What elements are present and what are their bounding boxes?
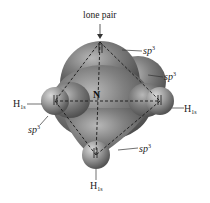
- lone-pair-label: lone pair: [83, 11, 117, 21]
- ammonia-sp3-diagram: lone pair N sp3 sp3 sp3 sp3 H1s H1s H1s: [0, 0, 210, 203]
- orbital-illustration: [0, 0, 210, 203]
- sp3-label-left: sp3: [28, 124, 40, 135]
- hydrogen-label-left: H1s: [13, 99, 26, 110]
- hydrogen-label-bottom: H1s: [90, 181, 103, 192]
- nitrogen-label: N: [93, 90, 100, 100]
- sp3-label-upper-right: sp3: [164, 71, 176, 82]
- hydrogen-label-right: H1s: [184, 104, 197, 115]
- sp3-label-bottom-right: sp3: [139, 143, 151, 154]
- lone-pair-arrow: [97, 24, 103, 39]
- sp3-label-top: sp3: [143, 45, 155, 56]
